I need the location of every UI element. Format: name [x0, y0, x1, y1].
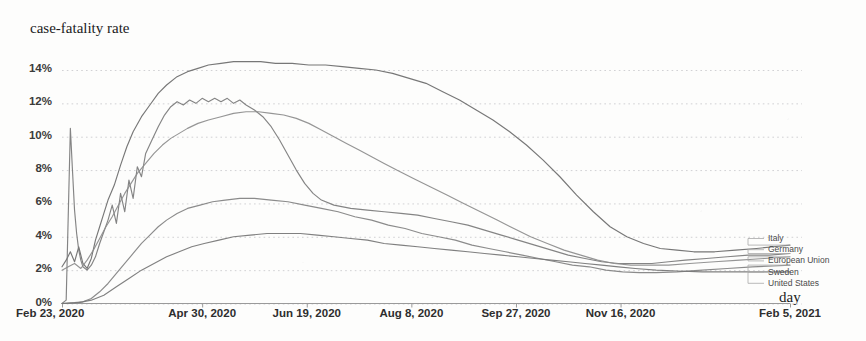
y-axis-tick-label: 12% [12, 95, 52, 107]
series-line-italy [62, 62, 790, 269]
legend-item-sweden[interactable]: Sweden [768, 267, 799, 277]
series-line-united-states [62, 233, 790, 303]
y-axis-tick-label: 14% [12, 62, 52, 74]
plot-area [0, 0, 866, 341]
series-line-european-union [62, 112, 790, 270]
y-axis-tick-label: 10% [12, 129, 52, 141]
x-axis-tick-label: Aug 8, 2020 [379, 307, 443, 319]
case-fatality-rate-chart: case-fatality rate day 0%2%4%6%8%10%12%1… [0, 0, 866, 341]
legend-item-italy[interactable]: Italy [768, 233, 784, 243]
y-axis-tick-label: 4% [12, 229, 52, 241]
y-axis-tick-label: 6% [12, 195, 52, 207]
x-axis-tick-label: Apr 30, 2020 [168, 307, 236, 319]
legend-item-germany[interactable]: Germany [768, 244, 803, 254]
x-axis-tick-label: Jun 19, 2020 [273, 307, 341, 319]
series-line-germany [62, 98, 790, 303]
legend-item-united-states[interactable]: United States [768, 278, 819, 288]
x-axis-tick-label: Feb 23, 2020 [16, 307, 84, 319]
y-axis-tick-label: 2% [12, 262, 52, 274]
x-axis-tick-label: Nov 16, 2020 [586, 307, 656, 319]
data-series-group [62, 62, 790, 304]
y-axis-tick-label: 0% [12, 296, 52, 308]
x-axis-tick-label: Feb 5, 2021 [759, 307, 821, 319]
y-axis-tick-label: 8% [12, 162, 52, 174]
x-axis-tick-label: Sep 27, 2020 [481, 307, 550, 319]
legend-item-european-union[interactable]: European Union [768, 255, 829, 265]
